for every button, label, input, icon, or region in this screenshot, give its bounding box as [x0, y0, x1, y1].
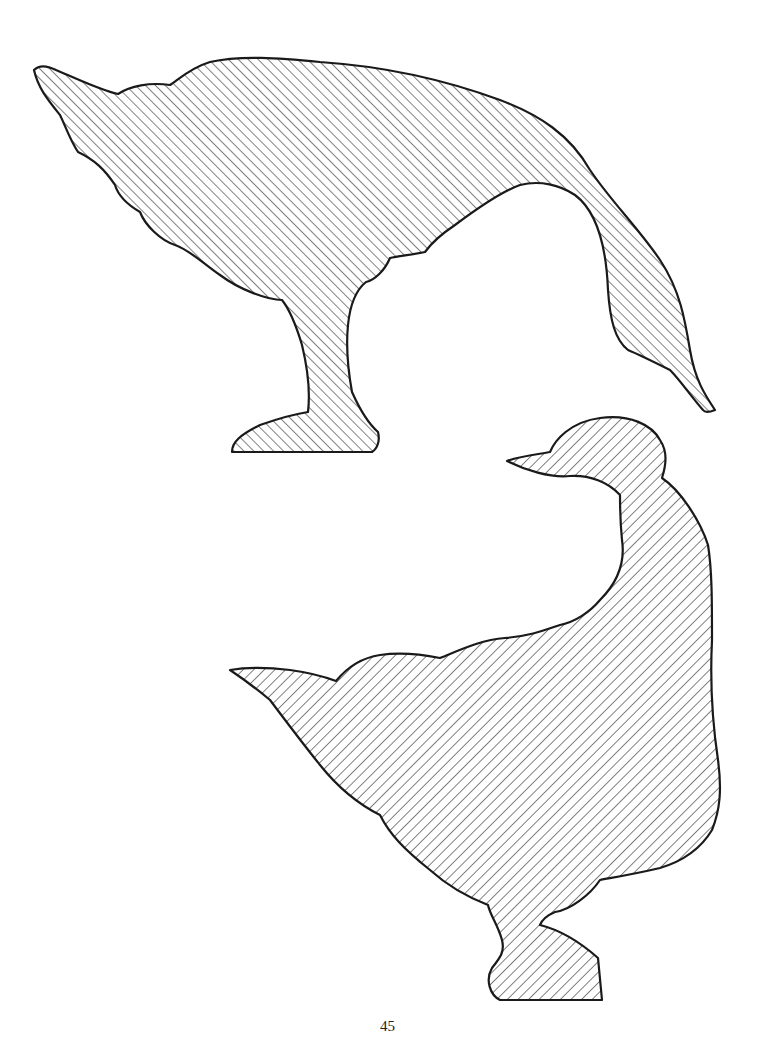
page-number: 45	[0, 1018, 775, 1035]
goose-bending-down-shape	[34, 58, 715, 452]
goose-patterns	[0, 0, 775, 1058]
goose-standing-looking-back-shape	[230, 417, 720, 1000]
document-page: 45	[0, 0, 775, 1058]
